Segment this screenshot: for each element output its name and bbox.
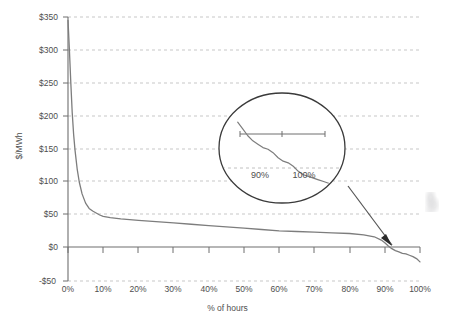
x-axis-ticks	[68, 247, 420, 253]
y-tick-label-100: $100	[14, 176, 58, 186]
x-tick-label-80: 80%	[330, 284, 370, 294]
inset-x-tick-label-100: 100%	[284, 170, 324, 180]
scan-artifact-smudge	[425, 192, 439, 212]
x-tick-label-70: 70%	[294, 284, 334, 294]
y-tick-label-50: $50	[14, 209, 58, 219]
x-tick-label-10: 10%	[83, 284, 123, 294]
x-tick-label-100: 100%	[400, 284, 440, 294]
y-axis-ticks	[63, 17, 68, 281]
callout-arrow	[348, 186, 392, 246]
y-tick-label-300: $300	[14, 45, 58, 55]
price-duration-chart: $350 $300 $250 $200 $150 $100 $50 $0 -$5…	[0, 0, 455, 325]
inset-x-tick-label-90: 90%	[240, 170, 280, 180]
x-tick-label-50: 50%	[224, 284, 264, 294]
y-tick-label-250: $250	[14, 78, 58, 88]
x-tick-label-40: 40%	[189, 284, 229, 294]
x-tick-label-0: 0%	[48, 284, 88, 294]
y-axis-title: $/MWh	[14, 116, 24, 176]
x-tick-label-20: 20%	[118, 284, 158, 294]
y-tick-label-350: $350	[14, 12, 58, 22]
chart-canvas	[0, 0, 455, 325]
x-tick-label-30: 30%	[153, 284, 193, 294]
magnifier-ellipse	[219, 93, 345, 203]
y-tick-label-0: $0	[14, 242, 58, 252]
x-axis-title: % of hours	[0, 303, 455, 313]
x-tick-label-90: 90%	[365, 284, 405, 294]
x-tick-label-60: 60%	[259, 284, 299, 294]
